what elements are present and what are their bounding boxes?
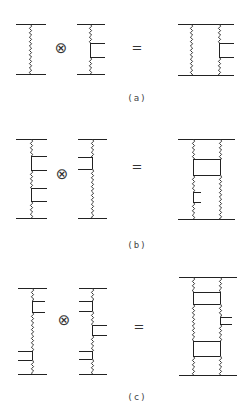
wavy-propagator bbox=[29, 24, 31, 74]
factor-2-diagram bbox=[79, 288, 107, 375]
wavy-propagator bbox=[192, 277, 194, 292]
wavy-propagator bbox=[89, 57, 91, 74]
wavy-propagator bbox=[219, 324, 221, 341]
wavy-propagator bbox=[30, 139, 32, 156]
otimes-operator-b: ⊗ bbox=[56, 165, 69, 183]
equals-sign-c: = bbox=[134, 319, 145, 334]
panel-a-graphics bbox=[16, 24, 234, 76]
wavy-propagator bbox=[219, 277, 221, 292]
factor-2-diagram bbox=[78, 139, 107, 219]
wavy-propagator bbox=[190, 24, 192, 75]
wavy-propagator bbox=[192, 304, 194, 341]
wavy-propagator bbox=[30, 201, 32, 218]
wavy-propagator bbox=[219, 175, 221, 219]
wavy-propagator bbox=[91, 311, 93, 325]
otimes-operator-c: ⊗ bbox=[58, 311, 71, 329]
wavy-propagator bbox=[219, 304, 221, 317]
panel-label-c: (c) bbox=[127, 392, 146, 402]
wavy-propagator bbox=[31, 360, 33, 374]
wavy-propagator bbox=[91, 335, 93, 351]
product-diagram bbox=[178, 24, 234, 76]
factor-2-diagram bbox=[77, 24, 105, 75]
product-diagram bbox=[179, 277, 237, 376]
product-diagram bbox=[178, 139, 235, 220]
panel-label-a: (a) bbox=[127, 93, 146, 103]
otimes-operator-a: ⊗ bbox=[55, 39, 68, 57]
equals-sign-b: = bbox=[132, 159, 143, 174]
panel-c-graphics bbox=[18, 277, 237, 376]
panel-b-graphics bbox=[16, 139, 235, 220]
wavy-propagator bbox=[192, 202, 194, 219]
equals-sign-a: = bbox=[132, 40, 143, 55]
wavy-propagator bbox=[218, 57, 220, 75]
wavy-propagator bbox=[219, 139, 221, 159]
wavy-propagator bbox=[31, 312, 33, 351]
factor-1-diagram bbox=[18, 288, 47, 375]
wavy-propagator bbox=[192, 356, 194, 375]
wavy-propagator bbox=[91, 359, 93, 374]
wavy-propagator bbox=[89, 24, 91, 43]
wavy-propagator bbox=[91, 139, 93, 157]
wavy-propagator bbox=[31, 288, 33, 301]
ladder-diagram-canvas bbox=[0, 0, 249, 418]
wavy-propagator bbox=[218, 24, 220, 43]
factor-1-diagram bbox=[16, 24, 46, 75]
wavy-propagator bbox=[91, 288, 93, 301]
panel-label-b: (b) bbox=[127, 240, 146, 250]
wavy-propagator bbox=[192, 175, 194, 192]
wavy-propagator bbox=[219, 356, 221, 375]
wavy-propagator bbox=[192, 139, 194, 159]
wavy-propagator bbox=[30, 170, 32, 188]
factor-1-diagram bbox=[16, 139, 47, 219]
wavy-propagator bbox=[91, 169, 93, 218]
